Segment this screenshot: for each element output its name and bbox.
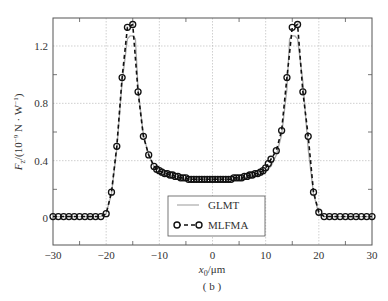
y-tick-label: 0.8 — [34, 97, 48, 109]
legend-mlfma-label: MLFMA — [208, 219, 248, 231]
chart: −30−20−100102030 00.40.81.2 GLMT MLFMA F… — [0, 0, 388, 301]
x-axis-label: x0/μm — [198, 263, 226, 278]
x-tick-label: −10 — [151, 249, 169, 261]
y-tick-label: 0 — [43, 212, 49, 224]
x-tick-label: −30 — [44, 249, 62, 261]
x-tick-label: 30 — [367, 249, 379, 261]
y-tick-label: 1.2 — [34, 40, 48, 52]
x-tick-label: 0 — [210, 249, 216, 261]
y-tick-labels: 00.40.81.2 — [34, 40, 48, 224]
x-tick-labels: −30−20−100102030 — [44, 249, 378, 261]
legend: GLMT MLFMA — [168, 196, 265, 236]
legend-mlfma-marker-icon — [174, 222, 180, 228]
y-tick-label: 0.4 — [34, 155, 48, 167]
y-axis-label: Fz/(10−9 N · W−1) — [12, 93, 27, 171]
legend-glmt-label: GLMT — [208, 199, 239, 211]
x-tick-label: 10 — [260, 249, 272, 261]
x-tick-label: 20 — [313, 249, 325, 261]
figure-caption: ( b ) — [203, 280, 222, 293]
legend-mlfma-marker-icon — [196, 222, 202, 228]
x-tick-label: −20 — [98, 249, 116, 261]
